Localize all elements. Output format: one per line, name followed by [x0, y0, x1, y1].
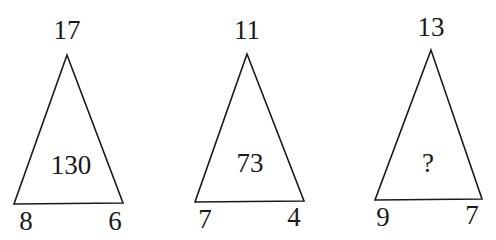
triangle-3-top-number: 13 — [418, 12, 445, 42]
triangle-2-bottom-left-number: 7 — [198, 204, 212, 234]
triangle-2-top-number: 11 — [234, 15, 260, 45]
triangle-2: 11 7 4 73 — [195, 15, 304, 234]
triangle-2-bottom-right-number: 4 — [287, 202, 301, 232]
triangle-2-shape — [195, 54, 304, 202]
triangle-1: 17 8 6 130 — [14, 15, 123, 236]
triangle-puzzle-diagram: 17 8 6 130 11 7 4 73 13 9 7 ? — [0, 0, 496, 240]
triangle-3-bottom-right-number: 7 — [465, 200, 479, 230]
triangle-1-shape — [14, 55, 123, 204]
triangle-1-bottom-right-number: 6 — [108, 206, 122, 236]
triangle-3: 13 9 7 ? — [375, 12, 482, 232]
triangle-2-center-number: 73 — [237, 148, 264, 178]
triangle-1-center-number: 130 — [51, 150, 92, 180]
triangle-1-bottom-left-number: 8 — [19, 206, 33, 236]
triangle-3-bottom-left-number: 9 — [376, 202, 390, 232]
triangle-3-center-unknown: ? — [422, 148, 434, 178]
triangle-1-top-number: 17 — [54, 15, 81, 45]
